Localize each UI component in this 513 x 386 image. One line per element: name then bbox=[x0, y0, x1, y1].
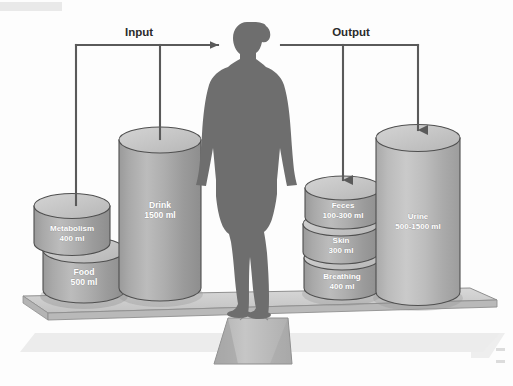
food-label-amount: 500 ml bbox=[71, 277, 98, 287]
metabolism-label-amount: 400 ml bbox=[60, 234, 85, 243]
urine-label-name: Urine bbox=[408, 212, 429, 221]
drink-label-name: Drink bbox=[149, 200, 171, 210]
skin-label-amount: 300 ml bbox=[329, 246, 354, 255]
feces-label-name: Feces bbox=[332, 201, 355, 210]
breathing-label-name: Breathing bbox=[323, 272, 360, 281]
corner-mark-b bbox=[496, 360, 505, 363]
corner-mark-a bbox=[496, 348, 505, 351]
cylinder-drink: Drink 1500 ml bbox=[117, 127, 203, 307]
breathing-label-amount: 400 ml bbox=[330, 282, 355, 291]
skin-label-name: Skin bbox=[333, 236, 350, 245]
feces-label-amount: 100-300 ml bbox=[323, 211, 364, 220]
metabolism-label-name: Metabolism bbox=[50, 224, 94, 233]
urine-label-amount: 500-1500 ml bbox=[395, 222, 440, 231]
corner-artifact-top-left bbox=[0, 2, 62, 11]
cylinder-metabolism: Metabolism 400 ml bbox=[34, 194, 110, 256]
food-label-name: Food bbox=[74, 267, 95, 277]
cylinder-urine: Urine 500-1500 ml bbox=[373, 125, 463, 312]
diagram-canvas: Food 500 ml Metabolism 400 ml Drink 1500… bbox=[0, 0, 513, 386]
input-label: Input bbox=[125, 26, 153, 38]
output-label: Output bbox=[332, 26, 370, 38]
drink-label-amount: 1500 ml bbox=[144, 210, 176, 220]
cylinder-feces: Feces 100-300 ml bbox=[305, 176, 381, 229]
metabolism-top bbox=[34, 194, 110, 219]
water-balance-diagram: Food 500 ml Metabolism 400 ml Drink 1500… bbox=[0, 0, 513, 386]
